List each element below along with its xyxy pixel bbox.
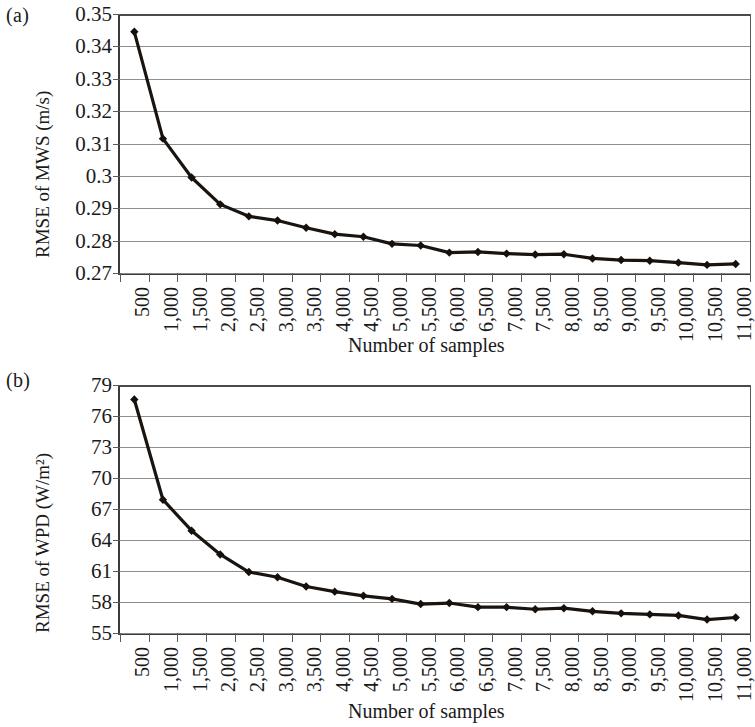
x-tick-label: 6,500 bbox=[474, 287, 497, 332]
x-tick-label: 9,000 bbox=[618, 647, 641, 692]
data-point-marker bbox=[731, 613, 739, 621]
figure-rmse-vs-samples: (a) RMSE of MWS (m/s) 0.270.280.290.30.3… bbox=[0, 0, 755, 727]
data-point-marker bbox=[331, 587, 339, 595]
x-tick-label: 3,500 bbox=[303, 287, 326, 332]
panel-b-x-axis-label: Number of samples bbox=[348, 700, 505, 723]
y-tick-label: 0.28 bbox=[75, 228, 112, 253]
x-tick-label: 6,000 bbox=[446, 287, 469, 332]
y-tick-mark bbox=[113, 144, 120, 145]
y-tick-mark bbox=[113, 509, 120, 510]
panel-b: (b) RMSE of WPD (W/m²) 55586164677073767… bbox=[0, 365, 755, 727]
x-tick-mark bbox=[750, 273, 751, 282]
x-tick-label: 8,500 bbox=[589, 287, 612, 332]
data-point-marker bbox=[617, 256, 625, 264]
x-tick-label: 5,500 bbox=[417, 287, 440, 332]
y-tick-label: 79 bbox=[91, 373, 112, 398]
y-tick-label: 55 bbox=[91, 621, 112, 646]
x-tick-label: 1,500 bbox=[188, 287, 211, 332]
x-tick-mark bbox=[292, 633, 293, 642]
y-tick-label: 58 bbox=[91, 590, 112, 615]
data-point-marker bbox=[560, 604, 568, 612]
x-tick-mark bbox=[206, 273, 207, 282]
x-tick-mark bbox=[550, 633, 551, 642]
data-point-marker bbox=[388, 240, 396, 248]
x-tick-mark bbox=[664, 633, 665, 642]
series-layer bbox=[120, 385, 750, 633]
data-point-marker bbox=[474, 248, 482, 256]
y-tick-mark bbox=[113, 46, 120, 47]
x-tick-mark bbox=[721, 633, 722, 642]
y-tick-mark bbox=[113, 602, 120, 603]
panel-b-tag: (b) bbox=[6, 369, 30, 392]
x-tick-mark bbox=[607, 273, 608, 282]
x-tick-mark bbox=[349, 273, 350, 282]
y-tick-mark bbox=[113, 633, 120, 634]
y-tick-mark bbox=[113, 478, 120, 479]
x-tick-label: 7,500 bbox=[532, 647, 555, 692]
y-tick-label: 0.27 bbox=[75, 261, 112, 286]
y-tick-label: 0.29 bbox=[75, 196, 112, 221]
data-point-marker bbox=[130, 28, 138, 36]
x-tick-mark bbox=[378, 633, 379, 642]
x-tick-label: 2,500 bbox=[245, 287, 268, 332]
data-point-marker bbox=[474, 603, 482, 611]
x-tick-mark bbox=[292, 273, 293, 282]
x-tick-mark bbox=[120, 273, 121, 282]
x-tick-mark bbox=[320, 633, 321, 642]
data-point-marker bbox=[130, 395, 138, 403]
x-tick-mark bbox=[693, 273, 694, 282]
data-line bbox=[134, 32, 735, 265]
x-tick-label: 1,500 bbox=[188, 647, 211, 692]
x-tick-mark bbox=[664, 273, 665, 282]
x-tick-mark bbox=[206, 633, 207, 642]
x-tick-label: 11,000 bbox=[732, 647, 755, 701]
y-tick-label: 0.33 bbox=[75, 66, 112, 91]
y-tick-label: 0.31 bbox=[75, 131, 112, 156]
data-point-marker bbox=[273, 573, 281, 581]
x-tick-mark bbox=[149, 273, 150, 282]
x-tick-mark bbox=[550, 273, 551, 282]
x-tick-label: 10,500 bbox=[704, 287, 727, 342]
x-tick-mark bbox=[263, 633, 264, 642]
y-tick-label: 73 bbox=[91, 435, 112, 460]
data-point-marker bbox=[445, 248, 453, 256]
x-tick-label: 9,500 bbox=[646, 287, 669, 332]
data-point-marker bbox=[588, 607, 596, 615]
x-tick-label: 6,500 bbox=[474, 647, 497, 692]
panel-a-y-axis-label: RMSE of MWS (m/s) bbox=[32, 91, 54, 258]
x-tick-label: 500 bbox=[131, 647, 154, 677]
data-point-marker bbox=[674, 258, 682, 266]
panel-a: (a) RMSE of MWS (m/s) 0.270.280.290.30.3… bbox=[0, 0, 755, 365]
data-point-marker bbox=[646, 610, 654, 618]
y-tick-label: 0.3 bbox=[86, 163, 112, 188]
y-tick-mark bbox=[113, 176, 120, 177]
x-tick-mark bbox=[406, 633, 407, 642]
data-point-marker bbox=[588, 254, 596, 262]
x-tick-mark bbox=[492, 633, 493, 642]
panel-b-plot-area: 5558616467707376795001,0001,5002,0002,50… bbox=[118, 385, 750, 635]
x-tick-label: 8,000 bbox=[560, 287, 583, 332]
data-point-marker bbox=[502, 603, 510, 611]
y-tick-label: 0.32 bbox=[75, 99, 112, 124]
x-tick-label: 11,000 bbox=[732, 287, 755, 341]
x-tick-label: 500 bbox=[131, 287, 154, 317]
x-tick-label: 7,500 bbox=[532, 287, 555, 332]
data-point-marker bbox=[703, 615, 711, 623]
x-tick-mark bbox=[578, 273, 579, 282]
x-tick-mark bbox=[349, 633, 350, 642]
x-tick-label: 10,500 bbox=[704, 647, 727, 702]
y-tick-mark bbox=[113, 447, 120, 448]
x-tick-mark bbox=[235, 633, 236, 642]
x-tick-label: 8,500 bbox=[589, 647, 612, 692]
data-point-marker bbox=[388, 595, 396, 603]
x-tick-label: 4,500 bbox=[360, 287, 383, 332]
data-point-marker bbox=[359, 592, 367, 600]
x-tick-label: 4,500 bbox=[360, 647, 383, 692]
data-point-marker bbox=[674, 611, 682, 619]
y-tick-mark bbox=[113, 14, 120, 15]
y-tick-label: 61 bbox=[91, 559, 112, 584]
x-tick-label: 4,000 bbox=[331, 287, 354, 332]
x-tick-mark bbox=[435, 273, 436, 282]
x-tick-mark bbox=[435, 633, 436, 642]
panel-a-x-axis-label: Number of samples bbox=[348, 334, 505, 357]
